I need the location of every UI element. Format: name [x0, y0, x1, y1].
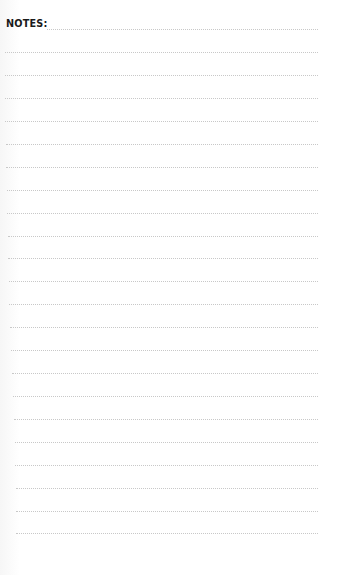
note-line: [8, 258, 318, 259]
note-line: [5, 121, 318, 122]
note-line: [16, 511, 318, 512]
note-line: [15, 465, 318, 466]
note-line: [6, 167, 318, 168]
note-line: [9, 281, 318, 282]
notes-heading: NOTES:: [6, 17, 47, 30]
note-line: [7, 190, 318, 191]
note-line: [14, 419, 318, 420]
note-line: [6, 144, 318, 145]
note-line: [5, 52, 318, 53]
note-line: [47, 29, 318, 30]
note-line: [12, 373, 318, 374]
note-line: [13, 396, 318, 397]
note-line: [7, 213, 318, 214]
note-line: [10, 327, 318, 328]
note-line: [15, 442, 318, 443]
note-line: [16, 533, 318, 534]
note-line: [9, 304, 318, 305]
note-line: [5, 98, 318, 99]
note-line: [11, 350, 318, 351]
note-line: [16, 488, 318, 489]
note-line: [5, 75, 318, 76]
note-line: [8, 236, 318, 237]
